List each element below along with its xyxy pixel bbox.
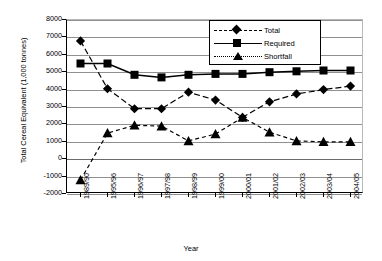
- x-axis-tick-mark: [215, 193, 216, 197]
- data-point-square: [185, 71, 193, 79]
- data-point-diamond: [130, 104, 139, 113]
- data-point-triangle: [211, 129, 221, 138]
- x-axis-tick-label: 2003/04: [326, 173, 333, 199]
- legend-swatch-shortfall: [214, 51, 262, 63]
- x-axis-tick-label: 2002/03: [299, 173, 306, 199]
- legend-label-total: Total: [264, 26, 280, 35]
- data-point-diamond: [346, 82, 355, 91]
- y-axis-tick-label: 6000: [28, 50, 62, 57]
- legend-item-total: Total: [214, 24, 316, 37]
- y-axis-tick-label: 8000: [28, 15, 62, 22]
- x-axis-tick-mark: [107, 193, 108, 197]
- data-point-square: [293, 67, 301, 75]
- legend-swatch-total: [214, 25, 262, 37]
- y-axis-tick-label: 7000: [28, 32, 62, 39]
- x-axis-tick-label: 1995/96: [110, 173, 117, 199]
- x-axis-tick-mark: [134, 193, 135, 197]
- data-point-square: [212, 70, 220, 78]
- series-line-shortfall: [81, 117, 351, 180]
- data-point-square: [320, 67, 328, 75]
- x-axis-tick-mark: [296, 193, 297, 197]
- x-axis-tick-label: 1989/90: [83, 173, 90, 199]
- x-axis-tick-mark: [188, 193, 189, 197]
- y-axis-tick-label: 0: [28, 154, 62, 161]
- x-axis-tick-mark: [161, 193, 162, 197]
- data-point-square: [131, 71, 139, 79]
- x-axis-tick-mark: [269, 193, 270, 197]
- x-axis-tick-label: 1996/97: [137, 173, 144, 199]
- data-point-diamond: [319, 85, 328, 94]
- y-axis-tick-label: 4000: [28, 85, 62, 92]
- x-axis-tick-mark: [242, 193, 243, 197]
- data-point-square: [239, 70, 247, 78]
- square-marker-icon: [233, 39, 241, 47]
- data-point-diamond: [265, 97, 274, 106]
- legend-label-required: Required: [264, 39, 295, 48]
- data-point-triangle: [103, 128, 113, 137]
- data-point-diamond: [103, 84, 112, 93]
- chart-legend: Total Required Shortfall: [209, 20, 321, 65]
- y-axis-tick-label: -2000: [28, 189, 62, 196]
- x-axis-tick-mark: [323, 193, 324, 197]
- y-axis-labels: 800070006000500040003000200010000-1000-2…: [26, 0, 62, 261]
- x-axis-tick-label: 1999/00: [218, 173, 225, 199]
- data-point-diamond: [184, 88, 193, 97]
- x-axis-tick-mark: [80, 193, 81, 197]
- data-point-square: [158, 73, 166, 81]
- y-axis-tick-label: -1000: [28, 172, 62, 179]
- data-point-diamond: [76, 36, 85, 45]
- y-axis-tick-label: 1000: [28, 137, 62, 144]
- data-point-diamond: [211, 95, 220, 104]
- legend-label-shortfall: Shortfall: [264, 52, 292, 61]
- data-point-diamond: [292, 89, 301, 98]
- y-axis-tick-label: 5000: [28, 67, 62, 74]
- y-axis-tick-label: 2000: [28, 119, 62, 126]
- legend-item-shortfall: Shortfall: [214, 50, 316, 63]
- legend-item-required: Required: [214, 37, 316, 50]
- chart-container: Total Cereal Equivalent (1,000 tonnes) 8…: [0, 0, 382, 261]
- data-point-square: [77, 60, 85, 68]
- y-axis-tick-label: 3000: [28, 102, 62, 109]
- triangle-marker-icon: [233, 52, 243, 60]
- y-axis-tick-mark: [62, 193, 66, 194]
- x-axis-tick-label: 2004/05: [353, 173, 360, 199]
- data-point-square: [104, 60, 112, 68]
- data-point-square: [266, 68, 274, 76]
- diamond-marker-icon: [232, 24, 242, 34]
- data-point-square: [347, 67, 355, 75]
- x-axis-title: Year: [0, 244, 382, 253]
- data-point-triangle: [265, 127, 275, 136]
- data-point-diamond: [157, 104, 166, 113]
- x-axis-tick-label: 1997/98: [164, 173, 171, 199]
- legend-swatch-required: [214, 38, 262, 50]
- x-axis-tick-label: 2001/02: [272, 173, 279, 199]
- x-axis-tick-label: 2000/01: [245, 173, 252, 199]
- x-axis-tick-mark: [350, 193, 351, 197]
- x-axis-tick-label: 1998/99: [191, 173, 198, 199]
